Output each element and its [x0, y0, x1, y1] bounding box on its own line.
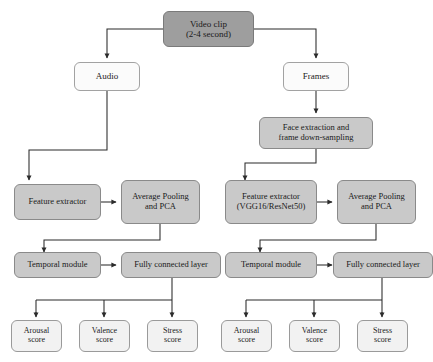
audio-temporal-module-label: Temporal module [25, 260, 89, 270]
video-valence-line1: Valence [302, 326, 327, 335]
video-feature-extractor-line1: Feature extractor [242, 191, 300, 201]
wire-video-fc-bus [246, 278, 382, 313]
audio-avg-pool-line2: and PCA [145, 201, 176, 211]
node-audio-valence-score: Valence score [79, 320, 130, 352]
audio-fully-connected-label: Fully connected layer [132, 260, 210, 270]
audio-valence-line2: score [96, 335, 113, 344]
node-video-fully-connected: Fully connected layer [333, 252, 433, 278]
video-fully-connected-label: Fully connected layer [344, 260, 422, 270]
node-video-temporal-module: Temporal module [225, 252, 317, 278]
audio-valence-line1: Valence [92, 326, 117, 335]
node-audio-fully-connected: Fully connected layer [121, 252, 221, 278]
video-arousal-line2: score [238, 335, 255, 344]
node-video-feature-extractor: Feature extractor (VGG16/ResNet50) [225, 180, 317, 224]
face-extraction-line1: Face extraction and [283, 122, 350, 132]
video-arousal-line1: Arousal [234, 326, 259, 335]
node-audio: Audio [74, 62, 140, 91]
audio-label: Audio [94, 71, 121, 81]
video-temporal-module-label: Temporal module [239, 260, 303, 270]
wire-audio-avgpool-to-temporal [44, 224, 160, 252]
wire-videoclip-to-frames [254, 29, 316, 58]
node-face-extraction: Face extraction and frame down-sampling [259, 117, 373, 149]
node-video-valence-score: Valence score [289, 320, 340, 352]
node-audio-temporal-module: Temporal module [14, 252, 101, 278]
video-clip-line2: (2-4 second) [186, 29, 231, 39]
node-video-average-pooling: Average Pooling and PCA [337, 180, 416, 224]
face-extraction-line2: frame down-sampling [279, 132, 354, 142]
audio-arousal-line1: Arousal [24, 326, 49, 335]
audio-avg-pool-line1: Average Pooling [132, 191, 189, 201]
video-avg-pool-line1: Average Pooling [348, 191, 405, 201]
audio-feature-extractor-label: Feature extractor [27, 197, 89, 207]
node-audio-stress-score: Stress score [147, 320, 198, 352]
node-audio-arousal-score: Arousal score [11, 320, 62, 352]
node-frames: Frames [283, 62, 349, 91]
audio-stress-line1: Stress [163, 326, 182, 335]
node-video-arousal-score: Arousal score [221, 320, 272, 352]
video-clip-line1: Video clip [190, 19, 227, 29]
wire-audio-to-feature-extractor [29, 91, 107, 180]
audio-arousal-line2: score [28, 335, 45, 344]
video-avg-pool-line2: and PCA [361, 201, 392, 211]
video-feature-extractor-line2: (VGG16/ResNet50) [237, 201, 305, 211]
frames-label: Frames [301, 71, 332, 81]
audio-stress-line2: score [164, 335, 181, 344]
node-video-clip: Video clip (2-4 second) [163, 11, 254, 47]
wire-videoclip-to-audio [107, 29, 163, 58]
wire-face-extraction-to-feature-extractor [245, 149, 316, 180]
node-audio-average-pooling: Average Pooling and PCA [121, 180, 200, 224]
wire-video-avgpool-to-temporal [260, 224, 376, 252]
video-stress-line2: score [374, 335, 391, 344]
node-audio-feature-extractor: Feature extractor [14, 184, 101, 220]
node-video-stress-score: Stress score [357, 320, 408, 352]
video-valence-line2: score [306, 335, 323, 344]
video-stress-line1: Stress [373, 326, 392, 335]
wire-audio-fc-bus [36, 278, 172, 313]
